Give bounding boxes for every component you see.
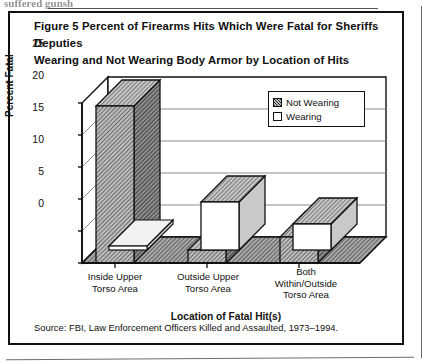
figure-source-note: Source: FBI, Law Enforcement Officers Ki… xyxy=(34,322,338,333)
legend-item-wearing: Wearing xyxy=(273,109,360,123)
legend-swatch-not-wearing-icon xyxy=(273,98,282,107)
x-tick-line-2: Within/Outside xyxy=(275,278,337,289)
figure-title-line-1: Figure 5 Percent of Firearms Hits Which … xyxy=(34,20,378,49)
legend-label-not-wearing: Not Wearing xyxy=(286,97,339,108)
x-tick-line-1: Inside Upper xyxy=(88,271,142,282)
y-tick-label-25: 25 xyxy=(22,37,44,49)
legend-label-wearing: Wearing xyxy=(286,111,322,122)
figure-title-line-2: Wearing and Not Wearing Body Armor by Lo… xyxy=(34,52,402,69)
page-border-bottom xyxy=(6,357,414,360)
x-tick-line-2: Torso Area xyxy=(92,283,138,294)
y-tick-label-10: 10 xyxy=(22,133,44,145)
legend-item-not-wearing: Not Wearing xyxy=(273,95,360,109)
x-tick-label-both-within-outside-torso: Both Within/Outside Torso Area xyxy=(260,266,352,301)
figure-title: Figure 5 Percent of Firearms Hits Which … xyxy=(34,18,402,69)
x-tick-label-outside-upper-torso: Outside Upper Torso Area xyxy=(162,271,254,294)
figure-box: Figure 5 Percent of Firearms Hits Which … xyxy=(8,11,404,345)
y-tick-label-20: 20 xyxy=(22,69,44,81)
chart-legend: Not Wearing Wearing xyxy=(268,91,365,127)
y-tick-label-15: 15 xyxy=(22,101,44,113)
x-tick-line-1: Both xyxy=(296,266,316,277)
page-border-right xyxy=(421,6,422,358)
y-tick-label-0: 0 xyxy=(22,197,44,209)
x-axis-title: Location of Fatal Hit(s) xyxy=(56,311,396,322)
y-axis-title: Percent Fatal xyxy=(4,54,15,117)
page-rule-top xyxy=(48,8,378,9)
x-tick-line-3: Torso Area xyxy=(283,289,329,300)
x-tick-line-2: Torso Area xyxy=(185,283,231,294)
y-tick-label-5: 5 xyxy=(22,165,44,177)
legend-swatch-wearing-icon xyxy=(273,112,282,121)
x-axis-tick-labels: Inside Upper Torso Area Outside Upper To… xyxy=(56,271,408,311)
x-tick-label-inside-upper-torso: Inside Upper Torso Area xyxy=(70,271,160,294)
x-tick-line-1: Outside Upper xyxy=(177,271,239,282)
